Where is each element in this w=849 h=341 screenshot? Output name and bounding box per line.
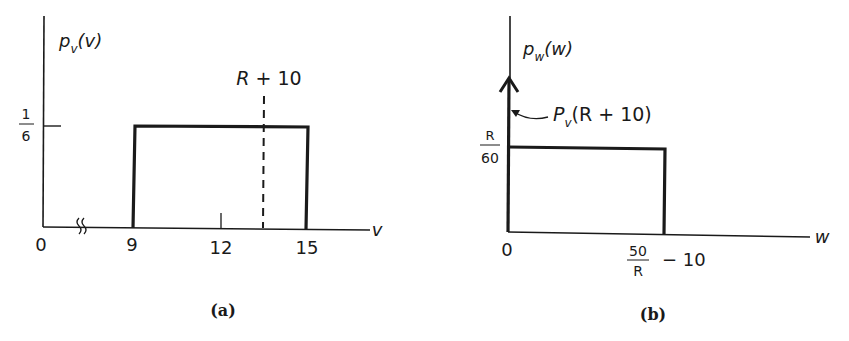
panel-b-x-axis [508,232,810,237]
panel-b-density [509,147,665,234]
panel-b-xtick-label-0: 0 [501,239,512,260]
panel-b-impulse-label: Pv(R + 10) [553,103,652,130]
axis-break-icon [77,218,86,234]
panel-b-ytick-num: R [485,128,494,143]
panel-a-caption: (a) [210,301,236,320]
panel-a-xtick-label-9: 9 [126,234,137,255]
panel-b-ylabel: pw(w) [522,38,573,64]
annotation-arrowhead-icon [511,110,520,117]
panel-a-ytick-den: 6 [22,128,31,144]
figure-canvas: 1 6 pv(v) R + 10 0 9 12 15 v (a) [0,0,849,341]
panel-b-impulse [508,80,509,232]
panel-a-xtick-label-15: 15 [296,237,319,258]
panel-a: 1 6 pv(v) R + 10 0 9 12 15 v (a) [19,16,383,320]
panel-b-caption: (b) [640,305,666,324]
panel-a-ytick-num: 1 [22,106,31,122]
panel-b-xtick-num: 50 [629,243,647,259]
panel-b-xlabel: w [815,226,830,247]
panel-a-xlabel: v [372,219,383,240]
panel-a-y-axis [43,16,44,227]
panel-a-dashed-label: R + 10 [236,67,301,89]
annotation-pointer-icon [514,112,548,119]
panel-a-xtick-label-12: 12 [210,237,233,258]
panel-a-x-axis [43,227,370,230]
figure: 1 6 pv(v) R + 10 0 9 12 15 v (a) [0,0,849,341]
panel-a-xtick-label-0: 0 [35,234,46,255]
panel-b: R 60 pw(w) Pv(R + 10) 0 50 R − 10 w (b) [480,16,830,324]
panel-b-ytick-den: 60 [481,150,499,166]
panel-b-xtick-den: R [633,263,643,279]
panel-b-xtick-rest: − 10 [662,249,706,270]
panel-a-dashed-line [263,96,264,228]
panel-a-ylabel: pv(v) [58,30,102,56]
